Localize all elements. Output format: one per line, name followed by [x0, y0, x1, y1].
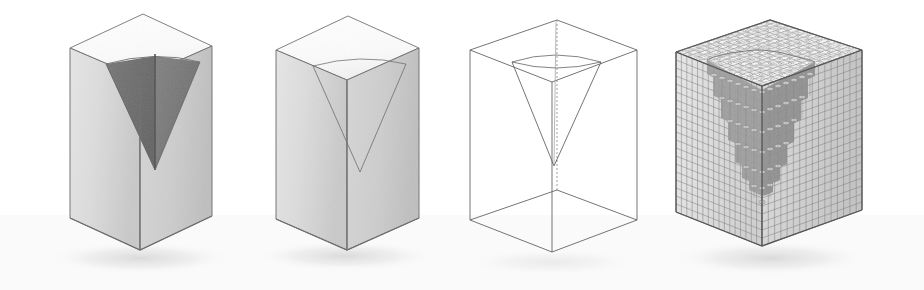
figure-svg [0, 0, 924, 290]
box3-cone-opening-ellipse [512, 55, 601, 68]
box2-left-face [276, 50, 347, 250]
box3-cone-generatrix-left [512, 62, 554, 166]
box2-right-face [347, 48, 419, 250]
box3-cone-generatrix-right [554, 62, 601, 166]
figure-canvas: solid box with conical notch removed sol… [0, 0, 924, 290]
box3-top-rhombus [470, 20, 637, 82]
panel-solid-cut [70, 14, 212, 250]
panel-voxel [676, 20, 862, 246]
box3-cone-axis [554, 22, 556, 166]
panel-solid-outline [276, 16, 419, 250]
